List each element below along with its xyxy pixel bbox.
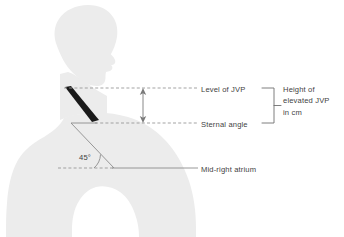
label-sternal-angle: Sternal angle — [201, 119, 248, 130]
diagram-canvas — [0, 0, 344, 237]
bracket-outline — [262, 88, 274, 123]
label-level-of-jvp: Level of JVP — [201, 84, 245, 95]
torso-shape — [6, 113, 196, 237]
height-label-line-2: elevated JVP — [283, 96, 330, 105]
label-height-of-elevated-jvp: Height of elevated JVP in cm — [283, 84, 341, 118]
jvp-height-arrow — [140, 88, 146, 123]
height-label-line-3: in cm — [283, 108, 302, 117]
label-recline-angle: 45° — [79, 152, 91, 163]
body-silhouette — [6, 5, 196, 237]
face-contour — [107, 52, 115, 65]
height-label-line-1: Height of — [283, 85, 315, 94]
label-mid-right-atrium: Mid-right atrium — [201, 164, 256, 175]
height-span-bracket — [262, 88, 281, 123]
jvp-diagram: Level of JVP Sternal angle Mid-right atr… — [0, 0, 344, 237]
